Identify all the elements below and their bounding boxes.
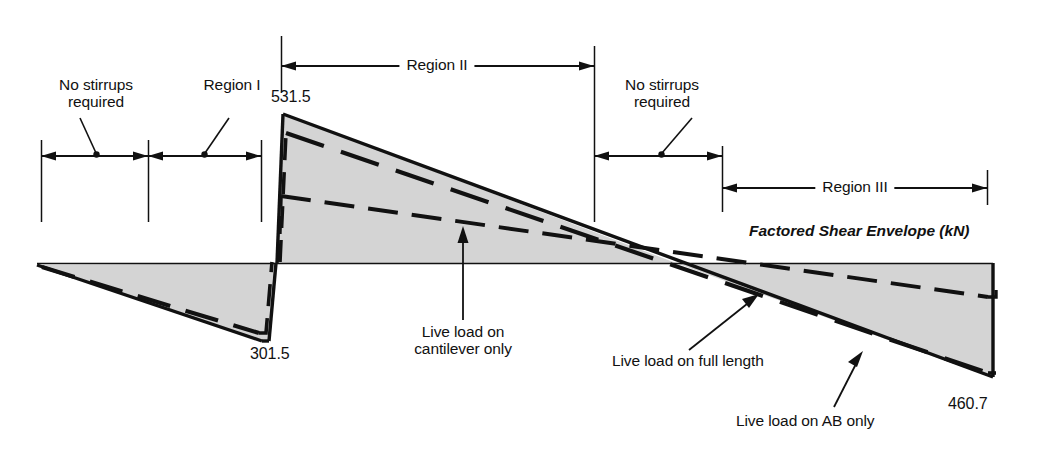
dimension-label-no-stirrups-right: No stirrups required xyxy=(625,76,699,110)
dimension-label-no-stirrups-left: No stirrups required xyxy=(59,76,133,110)
annotation-live-load-full-length: Live load on full length xyxy=(612,352,764,369)
value-label-460-7: 460.7 xyxy=(948,395,988,412)
arrow-live-load-ab-only xyxy=(834,351,863,407)
arrow-live-load-full-length xyxy=(689,294,759,350)
dimension-label-region-3: Region III xyxy=(815,178,894,195)
dimension-line-no-stirrups-right xyxy=(594,152,722,161)
value-label-531-5: 531.5 xyxy=(271,88,311,105)
curve-live-load-cantilever-only-riser xyxy=(279,196,281,262)
annotation-live-load-ab-only: Live load on AB only xyxy=(736,412,874,429)
leader-no-stirrups-right xyxy=(658,118,692,158)
annotation-live-load-cantilever-only: Live load on cantilever only xyxy=(414,323,512,357)
dimension-label-region-1: Region I xyxy=(204,76,261,93)
leader-no-stirrups-left xyxy=(80,118,100,158)
value-label-301-5: 301.5 xyxy=(250,345,290,362)
arrow-live-load-cantilever-only xyxy=(458,226,469,320)
envelope-area-main xyxy=(277,114,676,263)
shear-envelope-figure: No stirrups required Region I Region II … xyxy=(0,0,1045,464)
leader-region-1 xyxy=(201,118,229,158)
figure-title: Factored Shear Envelope (kN) xyxy=(749,222,970,239)
dimension-label-region-2: Region II xyxy=(399,56,474,73)
